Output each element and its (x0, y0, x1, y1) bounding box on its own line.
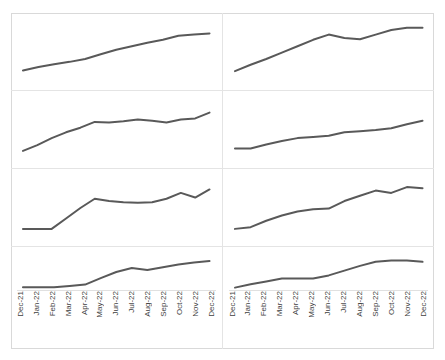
x-axis-tick-label: Mar-22 (65, 291, 73, 316)
x-axis-tick-label: Dec-22 (420, 291, 428, 317)
chart-panel-middle-upper-right (223, 91, 435, 169)
chart-panel-top-left (11, 13, 223, 91)
chart-panel-middle-lower-right (223, 169, 435, 247)
chart-panel-middle-lower-left (11, 169, 223, 247)
x-axis-tick-label: Dec-22 (208, 291, 216, 317)
x-axis-tick-label: Aug-22 (144, 291, 152, 317)
chart-panel-middle-upper-left (11, 91, 223, 169)
line-series-middle-upper-left (11, 91, 222, 168)
x-axis-tick-label: May-22 (308, 291, 316, 318)
x-axis-tick-label: Jul-22 (340, 291, 348, 313)
x-axis-tick-label: Feb-22 (260, 291, 268, 316)
x-axis-tick-label: Nov-22 (404, 291, 412, 317)
line-path (234, 260, 422, 287)
line-path (23, 261, 210, 287)
x-axis-tick-label: Sep-22 (160, 291, 168, 317)
figure-root: Dec-21Jan-22Feb-22Mar-22Apr-22May-22Jun-… (0, 0, 445, 360)
x-axis-tick-label: Jan-22 (244, 291, 252, 315)
line-series-top-right (223, 13, 435, 90)
x-axis-tick-label: Sep-22 (372, 291, 380, 317)
x-axis-tick-label: Oct-22 (176, 291, 184, 315)
line-path (234, 187, 422, 229)
small-multiples-grid: Dec-21Jan-22Feb-22Mar-22Apr-22May-22Jun-… (11, 13, 434, 349)
line-path (23, 33, 210, 70)
x-axis-tick-label: Nov-22 (192, 291, 200, 317)
x-axis-tick-label: Jun-22 (112, 291, 120, 315)
x-axis-tick-label: Mar-22 (276, 291, 284, 316)
x-axis-tick-label: Apr-22 (292, 291, 300, 315)
x-axis-tick-labels-left: Dec-21Jan-22Feb-22Mar-22Apr-22May-22Jun-… (11, 291, 222, 347)
line-path (234, 28, 422, 72)
x-axis-tick-label: Jul-22 (128, 291, 136, 313)
line-path (234, 121, 422, 149)
x-axis-tick-label: Dec-21 (229, 291, 237, 317)
x-axis-tick-label: Feb-22 (49, 291, 57, 316)
line-series-middle-lower-left (11, 169, 222, 246)
x-axis-tick-labels-right: Dec-21Jan-22Feb-22Mar-22Apr-22May-22Jun-… (223, 291, 435, 347)
x-axis-tick-label: Dec-21 (17, 291, 25, 317)
x-axis-tick-label: Apr-22 (81, 291, 89, 315)
line-series-middle-lower-right (223, 169, 435, 246)
x-axis-tick-label: Jan-22 (33, 291, 41, 315)
chart-panel-top-right (223, 13, 435, 91)
chart-panel-bottom-right: Dec-21Jan-22Feb-22Mar-22Apr-22May-22Jun-… (223, 247, 435, 349)
line-path (23, 189, 210, 228)
x-axis-tick-label: Aug-22 (356, 291, 364, 317)
x-axis-tick-label: May-22 (96, 291, 104, 318)
line-series-middle-upper-right (223, 91, 435, 168)
line-path (23, 113, 210, 151)
line-series-top-left (11, 13, 222, 90)
x-axis-tick-label: Oct-22 (388, 291, 396, 315)
x-axis-tick-label: Jun-22 (324, 291, 332, 315)
chart-panel-bottom-left: Dec-21Jan-22Feb-22Mar-22Apr-22May-22Jun-… (11, 247, 223, 349)
